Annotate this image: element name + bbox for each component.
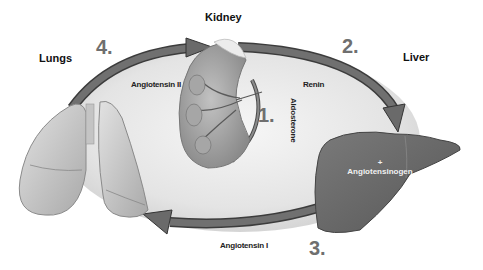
liver-illustration bbox=[315, 132, 460, 233]
step-4-number: 4. bbox=[96, 36, 113, 59]
step-1-number: 1. bbox=[258, 104, 275, 127]
angiotensinogen-label: Angiotensinogen bbox=[340, 167, 420, 176]
plus-sign: + bbox=[340, 158, 420, 167]
angiotensin-i-label: Angiotensin I bbox=[220, 241, 268, 250]
diagram-artwork bbox=[0, 0, 483, 270]
renin-label: Renin bbox=[303, 80, 324, 89]
aldosterone-label: Aldosterone bbox=[289, 98, 298, 142]
angiotensin-ii-label: Angiotensin II bbox=[131, 80, 181, 89]
angiotensinogen-group: + Angiotensinogen bbox=[340, 158, 420, 176]
raas-diagram: Kidney Lungs Liver Angiotensin II Renin … bbox=[0, 0, 483, 270]
liver-label: Liver bbox=[403, 51, 429, 63]
step-3-number: 3. bbox=[309, 237, 326, 260]
lungs-label: Lungs bbox=[39, 52, 72, 64]
step-2-number: 2. bbox=[342, 35, 359, 58]
kidney-label: Kidney bbox=[205, 11, 242, 23]
